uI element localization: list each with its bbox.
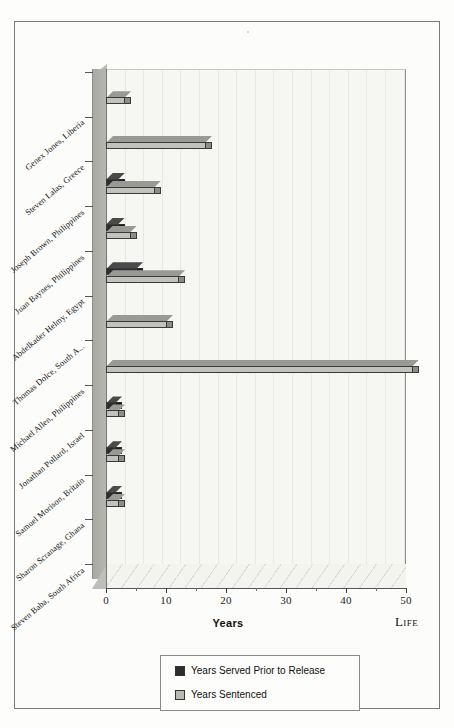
- x-tick-minor-25: [256, 588, 257, 591]
- bar-side-face: [124, 97, 131, 104]
- bar-side-face: [118, 410, 125, 417]
- bar-years-sentenced-4: [106, 270, 185, 283]
- legend-swatch-light-icon: [175, 690, 185, 700]
- bar-years-sentenced-1: [106, 136, 212, 149]
- x-tick-label-30: 30: [280, 594, 291, 606]
- chart-page: 01020304050 Genex Jones, LiberiaSteven L…: [0, 0, 454, 728]
- legend-label-years-served: Years Served Prior to Release: [191, 665, 325, 676]
- x-tick-label-0: 0: [103, 594, 109, 606]
- y-tick-10: [85, 519, 93, 520]
- bar-years-sentenced-3: [106, 226, 137, 239]
- legend-item-years-sentenced: Years Sentenced: [175, 689, 267, 700]
- bar-front-face: [106, 187, 155, 194]
- y-tick-4: [85, 251, 93, 252]
- legend-label-years-sentenced: Years Sentenced: [191, 689, 267, 700]
- life-annotation: Life: [395, 614, 418, 630]
- bar-years-sentenced-7: [106, 404, 125, 417]
- x-tick-label-10: 10: [160, 594, 171, 606]
- y-tick-7: [85, 385, 93, 386]
- y-tick-0: [85, 72, 93, 73]
- bar-years-sentenced-0: [106, 91, 131, 104]
- y-tick-2: [85, 161, 93, 162]
- plot-floor: [106, 564, 406, 589]
- plot-sidewall: [92, 69, 106, 579]
- x-tick-minor-5: [136, 588, 137, 591]
- x-tick-10: [166, 588, 167, 593]
- bar-years-sentenced-8: [106, 449, 125, 462]
- x-axis-title: Years: [213, 617, 244, 629]
- bar-years-sentenced-2: [106, 181, 161, 194]
- bar-front-face: [106, 500, 119, 507]
- x-tick-20: [226, 588, 227, 593]
- y-tick-5: [85, 296, 93, 297]
- bar-front-face: [106, 410, 119, 417]
- bar-years-sentenced-9: [106, 494, 125, 507]
- bar-side-face: [205, 142, 212, 149]
- x-tick-minor-15: [196, 588, 197, 591]
- y-tick-9: [85, 475, 93, 476]
- bar-front-face: [106, 366, 413, 373]
- legend-swatch-dark-icon: [175, 666, 185, 676]
- bar-side-face: [412, 366, 419, 373]
- bar-front-face: [106, 142, 206, 149]
- y-tick-11: [85, 564, 93, 565]
- chart-legend: Years Served Prior to Release Years Sent…: [160, 655, 360, 711]
- legend-item-years-served: Years Served Prior to Release: [175, 665, 325, 676]
- figure-border: 01020304050 Genex Jones, LiberiaSteven L…: [14, 21, 440, 709]
- x-tick-40: [346, 588, 347, 593]
- bar-side-face: [118, 500, 125, 507]
- x-tick-label-50: 50: [400, 594, 411, 606]
- bar-side-face: [178, 276, 185, 283]
- x-tick-label-40: 40: [340, 594, 351, 606]
- x-tick-0: [106, 588, 107, 593]
- y-tick-8: [85, 430, 93, 431]
- bar-side-face: [118, 455, 125, 462]
- bar-side-face: [166, 321, 173, 328]
- y-tick-1: [85, 117, 93, 118]
- bar-front-face: [106, 97, 125, 104]
- bar-front-face: [106, 455, 119, 462]
- x-tick-minor-45: [376, 588, 377, 591]
- x-tick-minor-35: [316, 588, 317, 591]
- bar-front-face: [106, 232, 131, 239]
- bar-front-face: [106, 321, 167, 328]
- plot-area: 01020304050 Genex Jones, LiberiaSteven L…: [15, 22, 441, 710]
- x-tick-50: [406, 588, 407, 593]
- bar-side-face: [130, 232, 137, 239]
- y-tick-3: [85, 206, 93, 207]
- bar-years-sentenced-5: [106, 315, 173, 328]
- bar-years-sentenced-6: [106, 360, 419, 373]
- x-tick-30: [286, 588, 287, 593]
- x-tick-label-20: 20: [220, 594, 231, 606]
- y-tick-6: [85, 340, 93, 341]
- bar-front-face: [106, 276, 179, 283]
- bar-side-face: [154, 187, 161, 194]
- scan-speck: [247, 31, 249, 33]
